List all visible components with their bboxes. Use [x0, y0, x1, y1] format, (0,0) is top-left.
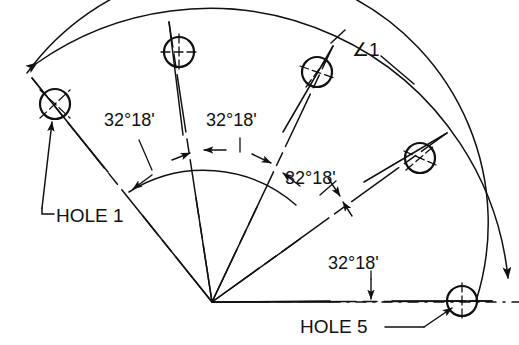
angle-label-1: 32°18'	[104, 110, 155, 131]
radial-solid-3	[212, 207, 257, 302]
hole-3-crosshair-b	[300, 66, 334, 78]
hole-1-label: HOLE 1	[56, 205, 124, 227]
hole-5-label: HOLE 5	[300, 316, 368, 338]
angle-symbol-label: ∠1	[352, 38, 380, 61]
drawing-canvas	[0, 0, 519, 345]
dim-arrow-r3a	[252, 154, 271, 163]
radial-outer-1	[32, 78, 108, 172]
hole-4-crosshair-b	[404, 151, 436, 165]
bolt-circle-arc	[27, 0, 488, 301]
angle-symbol-leader-b	[381, 56, 414, 84]
radial-centerlines	[32, 22, 492, 302]
angle-label-3: 32°18'	[285, 168, 336, 189]
angle-label-2: 32°18'	[206, 110, 257, 131]
hole-1-leader	[42, 208, 54, 214]
dim-arrow-r4b	[343, 202, 352, 216]
angle-symbol-leader-a	[331, 30, 345, 43]
radial-solid-1	[143, 216, 212, 302]
hole-1-leader-arrow	[42, 122, 52, 208]
hole-5-leader-arrow	[424, 308, 452, 327]
technical-drawing: 32°18' 32°18' 32°18' 32°18' ∠1 HOLE 1 HO…	[0, 0, 519, 345]
radial-solid-4	[212, 239, 300, 302]
radial-solid-2	[196, 198, 212, 302]
angle-label-4: 32°18'	[328, 253, 379, 274]
radial-solid-segments	[143, 198, 330, 302]
angle-1-leader	[139, 140, 152, 170]
dim-arrow-r2a	[172, 153, 190, 160]
overall-angle-arc	[37, 8, 508, 278]
radial-outer-segments	[32, 22, 492, 301]
